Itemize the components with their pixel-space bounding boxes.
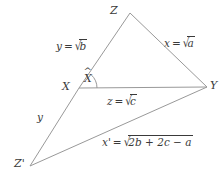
radical-icon-xz: √ (75, 39, 82, 51)
radical-icon-zy: √ (183, 36, 190, 48)
edge-label-zy-eq: = (170, 37, 183, 49)
segment-x-y (79, 87, 207, 88)
figure-lines (0, 0, 224, 178)
edge-label-xzprime: y (37, 112, 43, 123)
angle-arc-x (91, 75, 97, 88)
edge-label-xy-eq: = (113, 95, 126, 107)
radical-icon-zprimey: √ (124, 135, 131, 147)
segment-z-y (130, 13, 207, 87)
segment-x-zprime (30, 88, 79, 166)
vertex-label-z: Z (110, 5, 118, 16)
edge-label-zprimey-value: 2b + 2c − a (128, 135, 192, 148)
edge-label-zprimey-eq: = (111, 136, 124, 148)
edge-label-xy-var: z (107, 95, 113, 107)
edge-label-xy: z=√c (107, 96, 137, 107)
edge-label-xz-eq: = (62, 40, 75, 52)
edge-label-zy: x=√a (164, 38, 195, 49)
angle-label-x-hat: ^ X (84, 73, 92, 84)
radical-icon-xy: √ (125, 94, 132, 106)
vertex-label-y: Y (210, 80, 217, 91)
edge-label-xz: y=√b (56, 41, 87, 52)
vertex-label-x: X (62, 81, 70, 92)
hat-accent-icon: ^ (84, 66, 92, 76)
edge-label-zprimey: x'=√2b + 2c − a (102, 137, 193, 148)
vertex-label-zprime: Z' (14, 158, 25, 169)
geometry-figure: Z X Y Z' ^ X y=√b x=√a z=√c y x'=√2b + 2… (0, 0, 224, 178)
edge-label-zprimey-var: x' (102, 136, 111, 148)
